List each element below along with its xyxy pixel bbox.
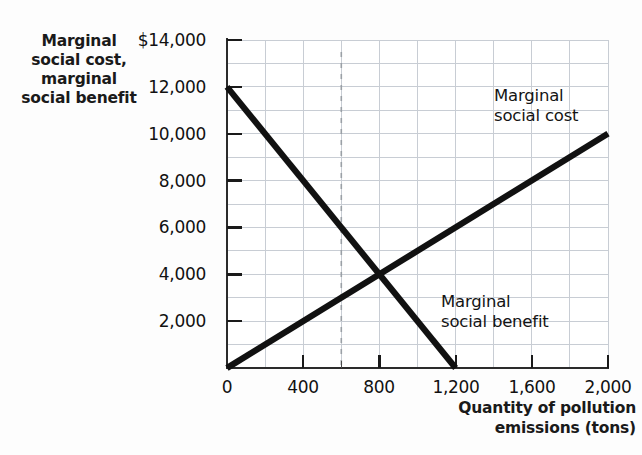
xtick-label-1200: 1,200 xyxy=(421,379,491,396)
annotation-msc-line-2: social cost xyxy=(494,106,578,126)
x-axis-title: Quantity of pollution emissions (tons) xyxy=(388,398,636,438)
xtick-label-0: 0 xyxy=(197,379,257,396)
annotation-msc-line-1: Marginal xyxy=(494,86,578,106)
ytick-label-8000: 8,000 xyxy=(96,173,206,190)
xtick-label-800: 800 xyxy=(349,379,409,396)
xtick-label-400: 400 xyxy=(273,379,333,396)
ytick-label-14000: $14,000 xyxy=(96,32,206,49)
x-axis-title-line-1: Quantity of pollution xyxy=(388,398,636,418)
ytick-label-2000: 2,000 xyxy=(96,313,206,330)
x-axis-title-line-2: emissions (tons) xyxy=(388,418,636,438)
chart-figure: Marginal social cost, marginal social be… xyxy=(0,0,642,455)
ytick-label-12000: 12,000 xyxy=(96,79,206,96)
annotation-msb-line-2: social benefit xyxy=(441,312,549,332)
annotation-marginal-social-benefit: Marginal social benefit xyxy=(441,292,549,332)
ytick-label-4000: 4,000 xyxy=(96,266,206,283)
xtick-label-1600: 1,600 xyxy=(497,379,567,396)
ytick-label-10000: 10,000 xyxy=(96,126,206,143)
annotation-marginal-social-cost: Marginal social cost xyxy=(494,86,578,126)
annotation-msb-line-1: Marginal xyxy=(441,292,549,312)
ytick-label-6000: 6,000 xyxy=(96,219,206,236)
xtick-label-2000: 2,000 xyxy=(573,379,642,396)
